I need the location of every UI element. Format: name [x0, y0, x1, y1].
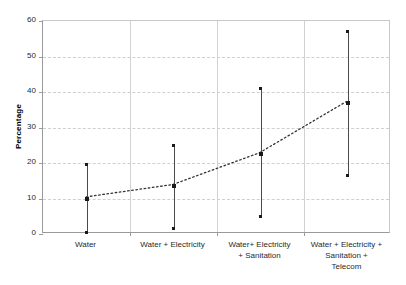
upper-bound-marker	[172, 144, 175, 147]
lower-bound-marker	[259, 215, 262, 218]
x-tick-label: Water	[42, 239, 129, 250]
y-tick-mark	[39, 57, 43, 58]
plot-area	[42, 20, 390, 233]
y-tick-mark	[39, 128, 43, 129]
y-tick-label: 30	[12, 123, 36, 131]
y-tick-mark	[39, 163, 43, 164]
lower-bound-marker	[85, 231, 88, 234]
x-tick-mark	[217, 232, 218, 236]
trend-line	[43, 21, 389, 232]
x-tick-label: Water+ Electricity + Sanitation	[216, 239, 303, 261]
mean-marker	[346, 101, 350, 105]
lower-bound-marker	[346, 174, 349, 177]
y-tick-mark	[39, 92, 43, 93]
y-tick-mark	[39, 234, 43, 235]
mean-marker	[172, 184, 176, 188]
y-tick-label: 20	[12, 158, 36, 166]
y-tick-label: 0	[12, 229, 36, 237]
y-tick-mark	[39, 21, 43, 22]
upper-bound-marker	[85, 163, 88, 166]
y-tick-label: 60	[12, 16, 36, 24]
x-tick-label: Water + Electricity + Sanitation + Telec…	[303, 239, 390, 272]
x-tick-mark	[130, 232, 131, 236]
x-tick-mark	[304, 232, 305, 236]
mean-marker	[85, 197, 89, 201]
y-tick-label: 50	[12, 52, 36, 60]
y-tick-label: 40	[12, 87, 36, 95]
y-tick-mark	[39, 199, 43, 200]
upper-bound-marker	[346, 30, 349, 33]
mean-marker	[259, 152, 263, 156]
lower-bound-marker	[172, 227, 175, 230]
x-tick-label: Water + Electricity	[129, 239, 216, 250]
chart-container: Percentage 0102030405060 WaterWater + El…	[0, 0, 406, 285]
upper-bound-marker	[259, 87, 262, 90]
y-tick-label: 10	[12, 194, 36, 202]
